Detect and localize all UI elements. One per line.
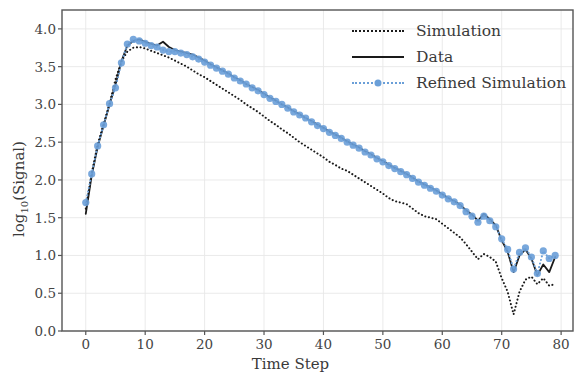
- y-tick-label: 3.5: [4, 59, 56, 75]
- series-marker: [504, 246, 511, 253]
- legend-item-refined-simulation: Refined Simulation: [352, 70, 567, 96]
- series-marker: [451, 198, 458, 205]
- series-marker: [409, 175, 416, 182]
- legend-key-simulation: [352, 24, 404, 38]
- x-tick-label: 20: [196, 336, 213, 352]
- chart-figure: 0.00.51.01.52.02.53.03.54.0 010203040506…: [0, 0, 581, 377]
- series-marker: [379, 158, 386, 165]
- series-marker: [480, 213, 487, 220]
- legend-item-simulation: Simulation: [352, 18, 567, 44]
- series-marker: [302, 114, 309, 121]
- x-tick-label: 50: [374, 336, 391, 352]
- series-marker: [106, 100, 113, 107]
- series-marker: [260, 91, 267, 98]
- series-marker: [403, 171, 410, 178]
- series-marker: [112, 84, 119, 91]
- series-marker: [468, 213, 475, 220]
- y-axis-title-main: log: [10, 213, 28, 236]
- series-marker: [225, 71, 232, 78]
- series-marker: [534, 270, 541, 277]
- series-marker: [118, 59, 125, 66]
- series-marker: [462, 208, 469, 215]
- series-marker: [552, 252, 559, 259]
- series-marker: [433, 188, 440, 195]
- series-marker: [492, 223, 499, 230]
- series-marker: [88, 170, 95, 177]
- series-marker: [367, 151, 374, 158]
- x-tick-label: 40: [315, 336, 332, 352]
- x-axis-title-text: Time Step: [252, 355, 329, 373]
- series-marker: [254, 87, 261, 94]
- series-marker: [355, 145, 362, 152]
- x-tick-label: 10: [137, 336, 154, 352]
- x-tick-label: 80: [553, 336, 570, 352]
- series-marker: [243, 80, 250, 87]
- series-marker: [308, 118, 315, 125]
- series-marker: [474, 219, 481, 226]
- series-marker: [486, 217, 493, 224]
- chart-legend: Simulation Data Refined Simulation: [352, 18, 567, 96]
- series-marker: [439, 191, 446, 198]
- series-marker: [100, 121, 107, 128]
- y-tick-label: 0.0: [4, 323, 56, 339]
- x-axis-title: Time Step: [0, 355, 581, 373]
- series-marker: [510, 265, 517, 272]
- legend-label-simulation: Simulation: [416, 22, 501, 40]
- x-tick-label: 60: [434, 336, 451, 352]
- x-tick-label: 30: [255, 336, 272, 352]
- series-marker: [284, 105, 291, 112]
- legend-label-data: Data: [416, 48, 453, 66]
- legend-marker-circle-icon: [375, 80, 382, 87]
- series-marker: [528, 253, 535, 260]
- legend-key-data: [352, 50, 404, 64]
- series-marker: [498, 235, 505, 242]
- series-marker: [82, 199, 89, 206]
- y-axis-title: log10(Signal): [10, 109, 30, 269]
- x-tick-label: 70: [493, 336, 510, 352]
- series-marker: [457, 202, 464, 209]
- series-marker: [278, 101, 285, 108]
- y-tick-label: 4.0: [4, 21, 56, 37]
- y-axis-title-tail: (Signal): [10, 141, 28, 201]
- series-marker: [516, 249, 523, 256]
- y-tick-label: 0.5: [4, 285, 56, 301]
- series-marker: [522, 244, 529, 251]
- series-marker: [338, 135, 345, 142]
- y-axis-title-subscript: 10: [19, 200, 30, 213]
- series-marker: [124, 40, 131, 47]
- x-tick-label: 0: [81, 336, 90, 352]
- series-marker: [320, 125, 327, 132]
- legend-key-refined-simulation: [352, 76, 404, 90]
- legend-label-refined-simulation: Refined Simulation: [416, 74, 566, 92]
- series-marker: [540, 247, 547, 254]
- series-marker: [94, 142, 101, 149]
- legend-item-data: Data: [352, 44, 567, 70]
